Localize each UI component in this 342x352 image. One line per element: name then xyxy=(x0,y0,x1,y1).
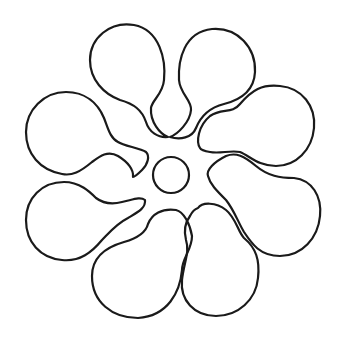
petal-right-lower xyxy=(208,154,321,256)
petal-bottom-right xyxy=(182,204,259,316)
petal-top-right xyxy=(170,29,255,138)
petal-bottom-left xyxy=(92,210,192,318)
petal-right-upper xyxy=(198,86,314,166)
petal-top-left xyxy=(90,24,168,137)
flower-drawing xyxy=(0,0,342,352)
flower-figure: Flower outline with eight petals xyxy=(0,0,342,352)
petal-left-lower xyxy=(26,182,145,260)
flower-center-circle xyxy=(153,157,189,193)
